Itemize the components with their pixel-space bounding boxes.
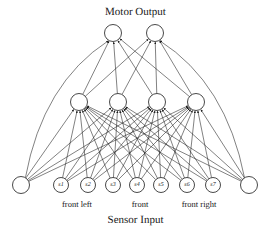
edge	[155, 42, 156, 93]
group-label-front-left: front left	[62, 200, 92, 209]
sensor-label-s3: s3	[110, 182, 115, 188]
edge	[84, 109, 132, 178]
edge	[188, 111, 195, 177]
output-node-m1	[105, 25, 122, 42]
group-label-front: front	[132, 200, 149, 209]
sensor-label-s6: s6	[184, 182, 189, 188]
edge	[91, 111, 115, 178]
edge	[65, 110, 113, 179]
edges-input-to-hidden	[26, 106, 245, 181]
sensor-label-s7: s7	[210, 182, 215, 188]
edges-bias-to-output-arcs	[25, 41, 244, 178]
sensor-label-s5: s5	[158, 182, 163, 188]
edge	[87, 107, 207, 181]
bias-node-right-bias	[241, 177, 258, 194]
neural-network-diagram: Motor Output Sensor Input front leftfron…	[0, 0, 271, 233]
edge	[118, 41, 153, 95]
sensor-label-s2: s2	[85, 182, 90, 188]
edge	[160, 111, 184, 178]
edge	[164, 108, 243, 179]
edge	[27, 108, 111, 180]
edge	[201, 110, 245, 178]
group-label-front-right: front right	[182, 200, 217, 209]
edge	[126, 107, 242, 181]
hidden-node-h2	[110, 94, 127, 111]
edge	[198, 111, 212, 178]
page-title-sensor-input: Sensor Input	[0, 215, 271, 226]
sensor-label-s1: s1	[58, 182, 63, 188]
network-nodes	[13, 25, 258, 194]
edge	[113, 111, 117, 177]
edge	[160, 41, 192, 95]
edge	[63, 111, 77, 178]
edge	[157, 111, 160, 177]
edge	[162, 110, 209, 179]
page-title-motor-output: Motor Output	[0, 7, 271, 18]
hidden-node-h1	[71, 94, 88, 111]
sensor-label-s4: s4	[134, 182, 139, 188]
edge	[164, 110, 193, 178]
edge	[120, 39, 189, 97]
output-node-m2	[147, 25, 164, 42]
hidden-node-h3	[149, 94, 166, 111]
hidden-node-h4	[188, 94, 205, 111]
edge	[122, 41, 151, 94]
edge	[26, 109, 74, 178]
bias-node-left-bias	[13, 177, 30, 194]
